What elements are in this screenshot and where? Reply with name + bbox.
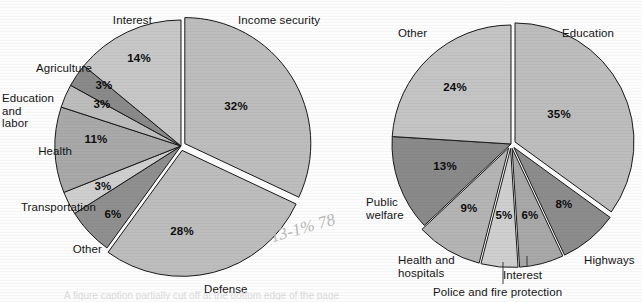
pie-charts-svg: 32%28%6%3%11%3%3%14%35%8%6%5%9%13%24% <box>0 0 642 302</box>
federal-label-interest: Interest <box>62 14 152 27</box>
federal-label-income_security: Income security <box>238 14 342 27</box>
state-local-label-interest: Interest <box>503 269 559 282</box>
slice-percent-agriculture: 3% <box>95 79 112 91</box>
slice-percent-income_security: 32% <box>224 100 248 112</box>
state-local-label-health_hospitals: Health and hospitals <box>398 254 482 279</box>
federal-label-transportation: Transportation <box>0 201 96 214</box>
slice-percent-transportation: 3% <box>94 180 111 192</box>
state-local-spending-pie <box>392 23 634 268</box>
slice-percent-highways: 8% <box>555 198 572 210</box>
slice-percent-health: 11% <box>85 133 108 145</box>
slice-percent-other: 24% <box>443 81 467 93</box>
federal-label-other: Other <box>38 243 102 256</box>
state-local-label-public_welfare: Public welfare <box>366 196 428 221</box>
figure-canvas: 32%28%6%3%11%3%3%14%35%8%6%5%9%13%24% In… <box>0 0 642 302</box>
slice-percent-interest: 6% <box>521 209 538 221</box>
slice-percent-education_labor: 3% <box>93 98 110 110</box>
slice-percent-defense: 28% <box>170 225 194 237</box>
slice-percent-education: 35% <box>547 108 571 120</box>
state-local-label-education: Education <box>562 27 640 40</box>
state-local-label-other: Other <box>398 27 458 40</box>
slice-percent-interest: 14% <box>127 52 151 64</box>
slice-percent-other: 6% <box>104 208 121 220</box>
bottom-cut-caption: A figure caption partially cut off at th… <box>64 290 584 300</box>
federal-spending-pie <box>55 18 311 277</box>
slice-percent-public_welfare: 13% <box>433 160 457 172</box>
slice-percent-police_fire: 5% <box>495 209 512 221</box>
federal-label-health: Health <box>2 145 72 158</box>
federal-label-agriculture: Agriculture <box>2 62 92 75</box>
federal-label-education_labor: Education and labor <box>2 92 80 130</box>
slice-percent-health_hospitals: 9% <box>460 202 477 214</box>
state-local-label-highways: Highways <box>584 254 642 267</box>
